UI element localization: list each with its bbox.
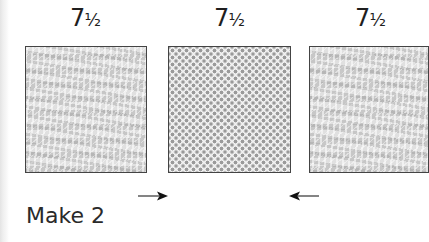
arrow-left-icon (288, 190, 320, 202)
dimension-whole: 7 (70, 4, 84, 32)
dimension-whole: 7 (355, 4, 369, 32)
fabric-block-lace-1 (25, 46, 147, 173)
dimension-label-2: 7½ (189, 4, 269, 32)
dimension-whole: 7 (214, 4, 228, 32)
dimension-label-3: 7½ (330, 4, 410, 32)
dimension-fraction: ½ (369, 10, 384, 30)
dimension-fraction: ½ (84, 10, 99, 30)
fabric-block-dots (168, 46, 291, 173)
dimension-fraction: ½ (228, 10, 243, 30)
arrow-right-icon (137, 190, 169, 202)
instruction-text: Make 2 (26, 203, 105, 228)
dimension-label-1: 7½ (45, 4, 125, 32)
fabric-block-lace-2 (309, 46, 429, 173)
page-edge-shadow (0, 0, 9, 242)
